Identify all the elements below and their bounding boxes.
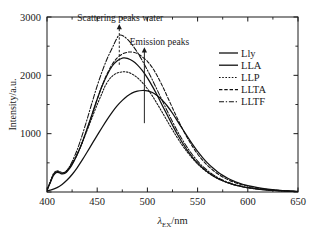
x-tick-label: 550 xyxy=(190,196,206,207)
series-line-lla xyxy=(47,58,298,192)
legend-label-lltf: LLTF xyxy=(241,96,265,107)
chart-canvas: 400450500550600650100020003000Intensity/… xyxy=(0,0,314,233)
y-tick-label: 1000 xyxy=(20,128,41,139)
legend-label-llta: LLTA xyxy=(241,84,266,95)
spectra-figure: 400450500550600650100020003000Intensity/… xyxy=(0,0,314,233)
legend-label-lla: LLA xyxy=(241,60,262,71)
y-tick-label: 2000 xyxy=(20,70,41,81)
x-tick-label: 450 xyxy=(89,196,105,207)
x-tick-label: 400 xyxy=(39,196,55,207)
x-axis-label: λEX/nm xyxy=(156,215,187,229)
x-tick-label: 600 xyxy=(240,196,256,207)
x-tick-label: 500 xyxy=(140,196,156,207)
y-axis-label: Intensity/a.u. xyxy=(7,78,18,130)
legend-label-llp: LLP xyxy=(241,72,260,83)
annotation-label-1: Emission peaks xyxy=(130,37,190,47)
annotation-arrow-head-0 xyxy=(117,24,122,29)
legend-label-lly: Lly xyxy=(241,48,256,59)
x-tick-label: 650 xyxy=(290,196,306,207)
y-tick-label: 3000 xyxy=(20,12,41,23)
annotation-label-0: Scattering peaks water xyxy=(77,13,164,23)
annotation-arrow-head-1 xyxy=(142,47,147,52)
